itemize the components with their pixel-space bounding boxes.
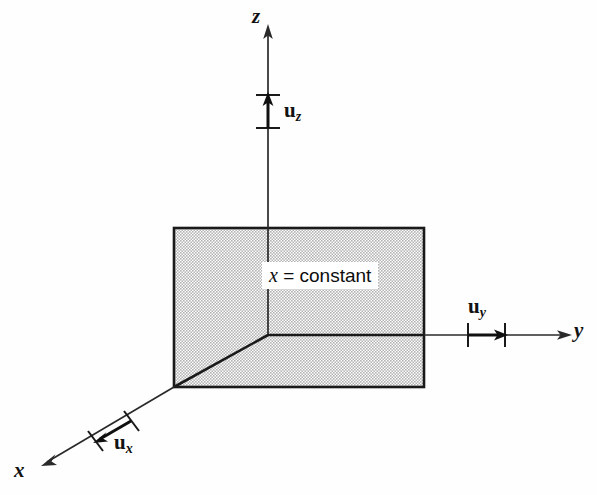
- x-unit-vector-subscript: x: [126, 441, 133, 456]
- y-unit-vector-symbol: u: [468, 294, 480, 318]
- constant-x-plane: [174, 228, 424, 387]
- z-axis-label: z: [252, 6, 260, 27]
- plane-equation-label: x = constant: [262, 262, 378, 289]
- z-unit-vector-symbol: u: [284, 98, 296, 122]
- x-axis: [41, 335, 268, 466]
- plane-rectangle: [174, 228, 424, 387]
- z-unit-vector-label: uz: [284, 100, 301, 124]
- vector-diagram-figure: z y x uz uy ux x = constant: [0, 0, 597, 495]
- x-axis-line-outside-plane: [47, 387, 174, 462]
- plane-equation-variable: x: [269, 264, 278, 286]
- y-unit-vector-subscript: y: [480, 305, 486, 320]
- y-unit-vector-label: uy: [468, 296, 486, 320]
- x-axis-tick-upper: [124, 411, 139, 431]
- x-unit-vector-symbol: u: [114, 430, 126, 454]
- x-axis-label: x: [14, 460, 25, 481]
- y-axis-label: y: [574, 320, 583, 341]
- diagram-canvas: [0, 0, 597, 495]
- z-unit-vector-subscript: z: [296, 109, 301, 124]
- x-unit-vector-label: ux: [114, 432, 133, 456]
- x-axis-arrowhead: [41, 454, 57, 466]
- plane-equation-relation: = constant: [283, 265, 371, 286]
